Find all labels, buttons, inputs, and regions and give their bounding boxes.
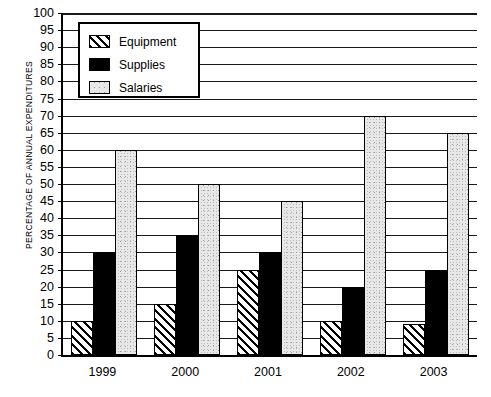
y-tick-label: 100 [14,6,54,20]
y-tick-mark [58,235,63,236]
y-tick-mark [58,184,63,185]
y-tick-mark [58,355,63,356]
y-tick-mark [58,30,63,31]
y-tick-mark [58,13,63,14]
y-tick-mark [58,47,63,48]
y-tick-label: 25 [14,263,54,277]
bar-supplies-2000 [176,235,198,355]
bar-group [403,13,469,355]
bar-supplies-2003 [425,270,447,356]
bar-supplies-2001 [259,252,281,355]
bar-salaries-2002 [364,116,386,355]
bar-group [320,13,386,355]
bar-equipment-2001 [237,270,259,356]
legend-label-salaries: Salaries [119,81,162,95]
bar-equipment-2003 [403,324,425,355]
y-tick-mark [58,252,63,253]
bar-salaries-2000 [198,184,220,355]
bar-equipment-2000 [154,304,176,355]
y-tick-mark [58,304,63,305]
x-tick-label-2001: 2001 [223,365,313,379]
legend-item-equipment: Equipment [89,31,198,52]
bar-equipment-2002 [320,321,342,355]
bar-salaries-1999 [115,150,137,355]
y-tick-mark [58,116,63,117]
y-tick-label: 60 [14,143,54,157]
y-tick-mark [58,99,63,100]
y-tick-label: 40 [14,211,54,225]
y-tick-mark [58,201,63,202]
y-tick-label: 75 [14,92,54,106]
y-tick-mark [58,270,63,271]
y-tick-mark [58,150,63,151]
legend-swatch-salaries [89,81,110,94]
legend-swatch-supplies [89,58,110,71]
legend-label-supplies: Supplies [119,58,165,72]
y-tick-mark [58,167,63,168]
y-tick-mark [58,133,63,134]
y-tick-label: 20 [14,280,54,294]
bar-group [237,13,303,355]
bar-supplies-2002 [342,287,364,355]
x-tick-label-2000: 2000 [140,365,230,379]
y-tick-label: 90 [14,40,54,54]
y-tick-mark [58,81,63,82]
y-tick-mark [58,321,63,322]
y-tick-label: 95 [14,23,54,37]
y-tick-label: 70 [14,109,54,123]
y-tick-mark [58,218,63,219]
x-tick-label-1999: 1999 [57,365,147,379]
x-tick-label-2002: 2002 [306,365,396,379]
chart-legend: EquipmentSuppliesSalaries [78,22,200,98]
legend-item-supplies: Supplies [89,54,198,75]
legend-label-equipment: Equipment [119,35,176,49]
bar-salaries-2001 [281,201,303,355]
y-tick-label: 50 [14,177,54,191]
legend-item-salaries: Salaries [89,77,198,98]
x-tick-label-2003: 2003 [389,365,479,379]
bar-supplies-1999 [93,252,115,355]
bar-equipment-1999 [71,321,93,355]
y-tick-label: 80 [14,74,54,88]
y-tick-mark [58,338,63,339]
y-tick-label: 65 [14,126,54,140]
y-tick-label: 5 [14,331,54,345]
bar-chart: PERCENTAGE OF ANNUAL EXPENDITURES 051015… [0,0,491,397]
legend-swatch-equipment [89,35,110,48]
y-tick-label: 30 [14,245,54,259]
bar-salaries-2003 [447,133,469,355]
y-tick-label: 55 [14,160,54,174]
y-tick-mark [58,64,63,65]
y-tick-label: 0 [14,348,54,362]
y-tick-mark [58,287,63,288]
y-tick-label: 85 [14,57,54,71]
y-tick-label: 45 [14,194,54,208]
y-tick-label: 15 [14,297,54,311]
y-tick-label: 10 [14,314,54,328]
y-tick-label: 35 [14,228,54,242]
